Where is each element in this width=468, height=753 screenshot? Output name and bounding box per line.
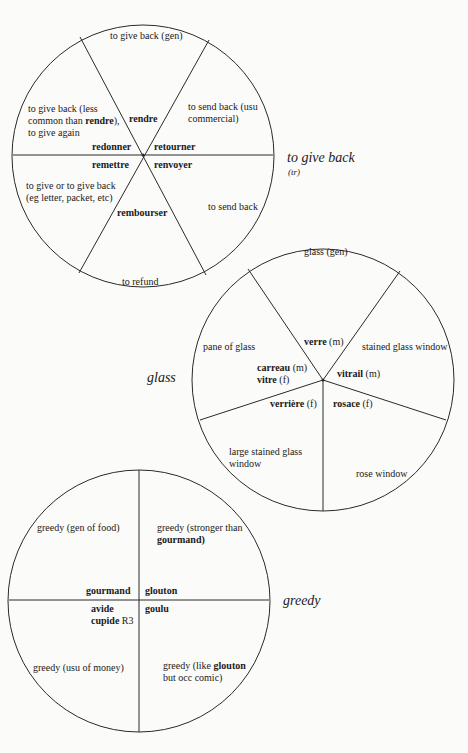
gloss-retourner-line2: commercial): [188, 113, 239, 125]
gloss-verriere-line1: large stained glass: [229, 446, 302, 458]
gloss-rosace: rose window: [356, 468, 407, 480]
gloss-retourner-line1: to send back (usu: [188, 101, 258, 113]
gloss-verre: glass (gen): [304, 246, 348, 258]
word-vitrail: vitrail (m): [337, 368, 380, 380]
word-goulu: goulu: [145, 603, 169, 615]
gloss-verriere-line2: window: [229, 458, 261, 470]
gloss-carreau: pane of glass: [203, 341, 255, 353]
word-vitre: vitre (f): [257, 374, 289, 386]
gloss-avide: greedy (usu of money): [33, 662, 124, 674]
gloss-remettre-line1: to give or to give back: [26, 180, 116, 192]
word-cupide: cupide R3: [91, 615, 134, 627]
word-remettre: remettre: [92, 159, 129, 171]
word-verriere: verrière (f): [270, 398, 317, 410]
gloss-goulu-line2: but occ comic): [163, 672, 222, 684]
gloss-glouton-line2: gourmand): [157, 534, 205, 546]
gloss-gourmand: greedy (gen of food): [37, 522, 119, 534]
word-redonner: redonner: [92, 141, 131, 153]
word-gourmand: gourmand: [86, 585, 130, 597]
word-rosace: rosace (f): [333, 398, 373, 410]
word-avide: avide: [91, 603, 114, 615]
gloss-renvoyer: to send back: [208, 201, 258, 213]
word-verre: verre (m): [304, 336, 344, 348]
gloss-vitrail: stained glass window: [362, 341, 448, 353]
gloss-redonner-line3: to give again: [28, 127, 80, 139]
gloss-goulu-line1: greedy (like glouton: [163, 660, 246, 672]
word-rembourser: rembourser: [117, 207, 167, 219]
diagram-title: glass: [147, 370, 176, 386]
gloss-redonner-line1: to give back (less: [28, 103, 98, 115]
gloss-glouton-line1: greedy (stronger than: [157, 522, 243, 534]
diagram-title: greedy: [283, 593, 321, 609]
gloss-rembourser: to refund: [122, 276, 158, 288]
diagram-title: to give back: [287, 150, 355, 166]
gloss-redonner-line2: common than rendre),: [28, 115, 120, 127]
word-retourner: retourner: [154, 141, 195, 153]
gloss-rendre: to give back (gen): [110, 30, 182, 42]
word-renvoyer: renvoyer: [154, 159, 192, 171]
diagram-subtitle: (tr): [288, 167, 300, 177]
word-carreau: carreau (m): [257, 362, 307, 374]
gloss-remettre-line2: (eg letter, packet, etc): [26, 192, 113, 204]
word-glouton: glouton: [145, 585, 177, 597]
word-rendre: rendre: [129, 113, 158, 125]
